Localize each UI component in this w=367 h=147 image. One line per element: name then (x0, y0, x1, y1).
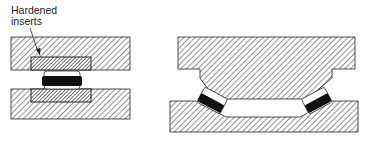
bottom-hardened-insert (31, 89, 91, 102)
diagram-canvas (0, 0, 367, 147)
right-diagram (170, 37, 358, 132)
left-diagram (11, 28, 130, 119)
roller-body (42, 76, 82, 86)
bottom-die-right (170, 101, 358, 132)
top-hardened-insert (31, 57, 91, 70)
